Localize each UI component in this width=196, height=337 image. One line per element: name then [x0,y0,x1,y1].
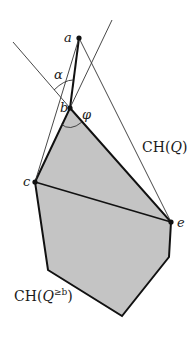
label-phi: φ [82,107,92,122]
label-e: e [177,215,185,230]
label-ch-q: CH(Q) [142,139,187,155]
diagram-canvas: a b c e α φ CH(Q) CH(Q≥b) [0,0,196,337]
edge-a-b [70,38,79,108]
label-a: a [64,30,72,45]
label-ch-q-ge-b: CH(Q≥b) [14,287,73,304]
point-e [168,219,173,224]
point-a [76,35,81,40]
label-b: b [60,100,68,115]
label-alpha: α [54,67,63,82]
label-c: c [23,174,31,189]
point-c [32,179,37,184]
